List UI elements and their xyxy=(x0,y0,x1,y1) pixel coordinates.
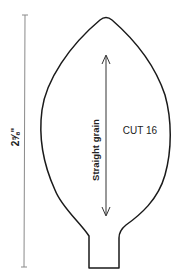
grain-label: Straight grain xyxy=(90,119,101,181)
cut-label: CUT 16 xyxy=(123,125,158,136)
dimension-label: 2⅝" xyxy=(10,127,21,146)
pattern-piece-diagram: 2⅝" Straight grain CUT 16 xyxy=(0,0,185,277)
grain-arrow-icon xyxy=(102,55,110,216)
dimension-line xyxy=(21,15,28,267)
